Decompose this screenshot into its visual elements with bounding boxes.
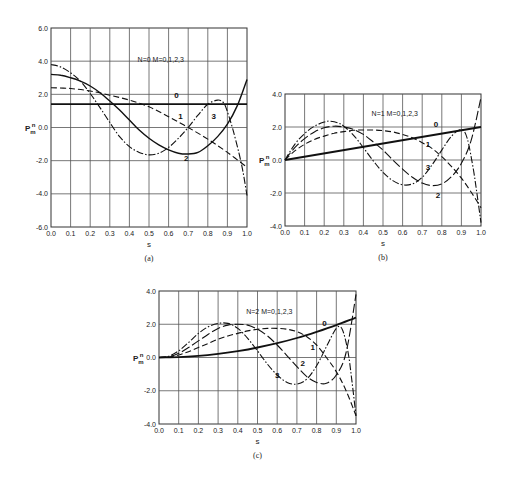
x-tick-label: 0.0 <box>280 229 290 236</box>
x-tick-label: 0.3 <box>213 427 223 434</box>
curve-label-m3: 3 <box>211 112 216 121</box>
chart-annotation: N=1 M=0,1,2,3 <box>372 110 418 117</box>
x-tick-label: 0.5 <box>144 230 154 237</box>
y-tick-label: 0.0 <box>38 124 48 131</box>
x-tick-label: 0.7 <box>183 230 193 237</box>
x-tick-label: 0.8 <box>203 230 213 237</box>
y-tick-label: 2.0 <box>146 321 156 328</box>
x-tick-label: 0.3 <box>339 229 349 236</box>
figure-canvas: 0.00.10.20.30.40.50.60.70.80.91.06.04.02… <box>0 0 509 483</box>
x-tick-label: 0.8 <box>437 229 447 236</box>
x-tick-label: 0.5 <box>378 229 388 236</box>
chart-a: 0.00.10.20.30.40.50.60.70.80.91.06.04.02… <box>25 25 252 264</box>
figure-caption: (c) <box>253 451 262 460</box>
curve-label-m2: 2 <box>301 359 306 368</box>
x-tick-label: 1.0 <box>351 427 361 434</box>
x-tick-label: 0.2 <box>85 230 95 237</box>
x-tick-label: 0.6 <box>164 230 174 237</box>
y-tick-label: -4.0 <box>270 223 282 230</box>
y-tick-label: 6.0 <box>38 25 48 32</box>
y-tick-label: 0.0 <box>272 157 282 164</box>
x-tick-label: 0.9 <box>457 229 467 236</box>
x-tick-label: 0.1 <box>174 427 184 434</box>
curve-label-m0: 0 <box>174 91 179 100</box>
x-tick-label: 0.1 <box>300 229 310 236</box>
curve-label-m0: 0 <box>322 319 327 328</box>
curve-label-m3: 3 <box>426 163 431 172</box>
curve-label-m3: 3 <box>275 371 280 380</box>
y-axis-label: Pmn <box>259 154 270 167</box>
x-tick-label: 1.0 <box>242 230 252 237</box>
x-axis-label: s <box>256 437 260 446</box>
curve-label-m0: 0 <box>434 120 439 129</box>
curve-label-m1: 1 <box>178 112 183 121</box>
y-tick-label: 4.0 <box>146 288 156 295</box>
y-tick-label: 2.0 <box>272 124 282 131</box>
chart-annotation: N=2 M=0,1,2,3 <box>246 308 292 315</box>
curve-label-m1: 1 <box>310 343 315 352</box>
y-tick-label: 2.0 <box>38 91 48 98</box>
x-tick-label: 0.9 <box>223 230 233 237</box>
y-axis-label: Pmn <box>133 352 144 365</box>
y-tick-label: -4.0 <box>144 421 156 428</box>
x-tick-label: 0.7 <box>292 427 302 434</box>
chart-b: 0.00.10.20.30.40.50.60.70.80.91.04.02.00… <box>259 91 486 263</box>
y-tick-label: -2.0 <box>36 157 48 164</box>
x-tick-label: 0.7 <box>417 229 427 236</box>
y-tick-label: -2.0 <box>144 387 156 394</box>
x-tick-label: 0.2 <box>194 427 204 434</box>
x-tick-label: 0.8 <box>312 427 322 434</box>
chart-c: 0.00.10.20.30.40.50.60.70.80.91.04.02.00… <box>133 288 361 461</box>
x-tick-label: 0.9 <box>331 427 341 434</box>
chart-annotation: N=0 M=0,1,2,3 <box>138 56 184 63</box>
figure-caption: (b) <box>378 253 388 262</box>
x-tick-label: 1.0 <box>476 229 486 236</box>
curve-label-m2: 2 <box>436 191 441 200</box>
y-tick-label: -4.0 <box>36 190 48 197</box>
curve-label-m2: 2 <box>184 154 189 163</box>
x-tick-label: 0.3 <box>105 230 115 237</box>
curve-label-m1: 1 <box>426 140 431 149</box>
x-tick-label: 0.6 <box>272 427 282 434</box>
y-tick-label: 4.0 <box>272 91 282 98</box>
x-tick-label: 0.4 <box>233 427 243 434</box>
x-tick-label: 0.2 <box>319 229 329 236</box>
x-tick-label: 0.6 <box>398 229 408 236</box>
x-tick-label: 0.0 <box>154 427 164 434</box>
y-tick-label: 4.0 <box>38 58 48 65</box>
y-axis-label: Pmn <box>25 122 36 135</box>
y-tick-label: -6.0 <box>36 224 48 231</box>
x-axis-label: s <box>147 240 151 249</box>
x-axis-label: s <box>381 239 385 248</box>
x-tick-label: 0.1 <box>66 230 76 237</box>
y-tick-label: -2.0 <box>270 190 282 197</box>
x-tick-label: 0.0 <box>46 230 56 237</box>
x-tick-label: 0.4 <box>125 230 135 237</box>
x-tick-label: 0.5 <box>253 427 263 434</box>
y-tick-label: 0.0 <box>146 354 156 361</box>
figure-caption: (a) <box>145 254 154 263</box>
x-tick-label: 0.4 <box>359 229 369 236</box>
